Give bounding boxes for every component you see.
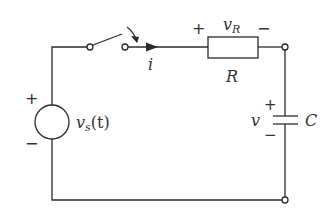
resistor-voltage-sub: R (231, 23, 240, 36)
resistor-label: R (225, 67, 238, 86)
switch-terminal-right (122, 44, 128, 50)
source-plus-sign: + (25, 89, 38, 108)
source-label-arg: (t) (91, 113, 110, 132)
source-label-main: v (76, 113, 85, 132)
resistor-voltage-label: vR (223, 15, 240, 36)
voltage-source: + − vs(t) (25, 89, 110, 153)
switch-closing-arrow-icon (127, 27, 139, 43)
resistor: + − vR R (192, 15, 270, 86)
capacitor: + − v C (251, 96, 317, 144)
resistor-voltage-main: v (223, 15, 232, 34)
current-label: i (148, 55, 153, 74)
bottom-wire (52, 139, 282, 200)
resistor-plus-sign: + (192, 19, 205, 38)
switch-blade (93, 34, 122, 45)
left-top-wire (52, 47, 87, 105)
source-minus-sign: − (25, 134, 38, 153)
capacitor-minus-sign: − (264, 126, 277, 144)
top-right-terminal (282, 44, 288, 50)
resistor-body (208, 37, 258, 58)
source-label: vs(t) (76, 113, 110, 134)
current-arrow-icon (146, 43, 158, 52)
switch-terminal-left (87, 44, 93, 50)
capacitor-plus-sign: + (264, 96, 277, 114)
voltage-source-circle (35, 105, 69, 139)
capacitor-voltage-label: v (251, 111, 260, 130)
circuit-diagram: + − vs(t) i + − vR R + − v (0, 0, 336, 220)
bottom-right-terminal (282, 197, 288, 203)
current-indicator: i (146, 43, 158, 75)
resistor-minus-sign: − (257, 19, 270, 38)
capacitor-label: C (305, 111, 317, 130)
